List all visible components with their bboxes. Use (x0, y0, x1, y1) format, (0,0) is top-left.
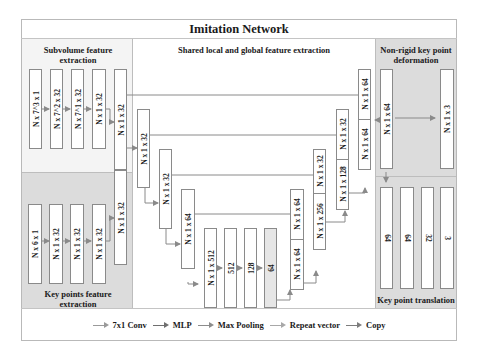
legend-item-maxpool: Max Pooling (198, 320, 264, 330)
translation-label: Key point translation (376, 295, 456, 305)
block-d3-bottom: N x 1 x 128 (337, 160, 348, 210)
block-sv3: N x 7^1 x 32 (71, 69, 84, 149)
legend: 7x1 Conv MLP Max Pooling Repeat vector C… (21, 308, 457, 341)
keypoints-label: Key points feature extraction (30, 289, 126, 309)
block-t4: 3 (440, 187, 454, 289)
block-nr1: N x 1 x 64 (380, 69, 393, 169)
block-d4-bottom: N x 1 x 64 (359, 120, 370, 170)
nonrigid-label: Non-rigid key point deformation (378, 45, 454, 65)
arrow-icon (93, 322, 109, 328)
block-kp3: N x 1 x 32 (70, 204, 84, 284)
block-e1: N x 1 x 32 (137, 109, 150, 188)
arrow-icon (153, 322, 169, 328)
block-e3: N x 1 x 64 (181, 189, 195, 269)
block-t3: 32 (421, 187, 434, 289)
block-sv5: N x 1 x 32 (114, 69, 127, 170)
block-sv2: N x 7^2 x 32 (50, 69, 63, 149)
arrow-icon (198, 322, 214, 328)
shared-label: Shared local and global feature extracti… (140, 45, 368, 55)
block-kp2: N x 1 x 32 (49, 204, 63, 284)
block-d2-top: N x 1 x 32 (314, 150, 325, 194)
block-m2: 128 (244, 228, 257, 308)
block-kp5: N x 1 x 32 (114, 170, 127, 265)
arrow-icon (270, 322, 286, 328)
subvolume-label: Subvolume feature extraction (30, 45, 126, 65)
block-e4: N x 1 x 512 (204, 228, 217, 308)
block-d2-bottom: N x 1 x 256 (314, 194, 325, 249)
block-nr2: N x 1 x 3 (440, 69, 454, 169)
block-m3: 64 (264, 228, 277, 308)
legend-item-conv: 7x1 Conv (93, 320, 147, 330)
block-e2: N x 1 x 32 (159, 149, 172, 229)
block-d3-top: N x 1 x 32 (337, 110, 348, 160)
block-m1: 512 (224, 228, 237, 308)
block-t1: 64 (380, 187, 393, 289)
block-d2: N x 1 x 32 N x 1 x 256 (313, 149, 326, 250)
legend-item-repeat: Repeat vector (270, 320, 340, 330)
block-sv4: N x 1 x 32 (92, 69, 106, 149)
block-sv1: N x 7^3 x 1 (29, 69, 42, 149)
diagram-title: Imitation Network (21, 19, 457, 39)
legend-item-mlp: MLP (153, 320, 192, 330)
block-t2: 64 (400, 187, 414, 289)
legend-item-copy: Copy (346, 320, 385, 330)
block-d1-top: N x 1 x 64 (291, 190, 303, 240)
block-d4: N x 1 x 64 N x 1 x 64 (358, 69, 371, 170)
block-d1-bottom: N x 1 x 64 (291, 240, 303, 290)
block-kp1: N x 6 x 1 (28, 204, 42, 284)
block-d4-top: N x 1 x 64 (359, 70, 370, 120)
block-d1: N x 1 x 64 N x 1 x 64 (290, 189, 304, 290)
arrow-icon (346, 322, 362, 328)
block-d3: N x 1 x 32 N x 1 x 128 (336, 109, 349, 210)
block-kp4: N x 1 x 32 (92, 204, 106, 284)
